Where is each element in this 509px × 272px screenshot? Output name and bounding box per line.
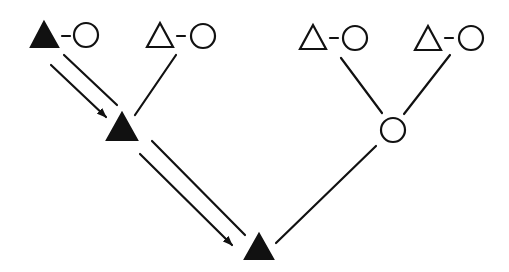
descent-line: [135, 55, 176, 115]
descent-line: [404, 55, 450, 114]
couple-g1-right1: [300, 25, 367, 50]
descent-line: [341, 58, 382, 113]
couple-g1-mid: [147, 23, 215, 48]
descent-arrow-line: [51, 65, 106, 117]
descent-line: [152, 141, 245, 235]
descent-line: [276, 146, 376, 243]
female-circle-g2: [381, 118, 405, 142]
pedigree-diagram: [0, 0, 509, 272]
affected-male-triangle-g2: [107, 113, 137, 140]
descent-line: [64, 55, 117, 105]
male-triangle: [300, 25, 326, 49]
affected-male-triangle: [31, 22, 58, 47]
female-circle: [74, 23, 98, 47]
couple-g1-right2: [415, 26, 483, 50]
affected-male-triangle-g3: [245, 234, 273, 259]
descent-arrow-line: [140, 154, 232, 245]
female-circle: [191, 24, 215, 48]
female-circle: [343, 26, 367, 50]
male-triangle: [147, 23, 173, 47]
male-triangle: [415, 26, 441, 50]
female-circle: [459, 26, 483, 50]
couple-g1-left: [31, 22, 98, 47]
